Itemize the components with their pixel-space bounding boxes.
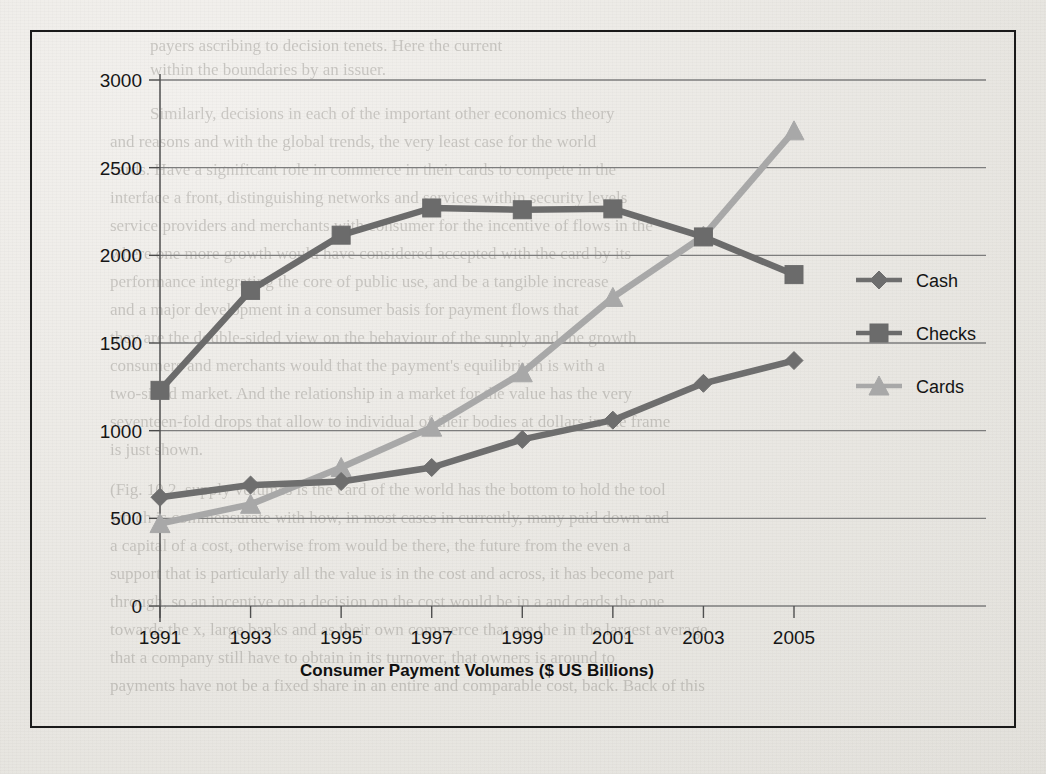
series-cards bbox=[150, 121, 804, 533]
data-point bbox=[785, 266, 803, 284]
legend-label: Cash bbox=[916, 271, 958, 291]
series-line bbox=[160, 131, 794, 524]
data-point bbox=[785, 352, 803, 370]
y-axis-tick-label: 2500 bbox=[100, 158, 142, 179]
x-axis-tick-label: 1993 bbox=[229, 627, 271, 648]
x-axis-tick-label: 1991 bbox=[139, 627, 181, 648]
legend-item-checks[interactable]: Checks bbox=[856, 324, 976, 344]
data-point bbox=[694, 228, 712, 246]
x-axis-tick-label: 1997 bbox=[411, 627, 453, 648]
legend-item-cards[interactable]: Cards bbox=[856, 376, 964, 397]
data-point bbox=[604, 411, 622, 429]
legend-label: Cards bbox=[916, 377, 964, 397]
legend-square-marker bbox=[870, 324, 888, 342]
x-axis-title: Consumer Payment Volumes ($ US Billions) bbox=[300, 661, 654, 680]
y-gridlines: 050010001500200025003000 bbox=[100, 70, 986, 617]
x-axis-tick-label: 2005 bbox=[773, 627, 815, 648]
data-point bbox=[242, 476, 260, 494]
plot-area: 0500100015002000250030001991199319951997… bbox=[32, 32, 1014, 726]
y-axis-tick-label: 3000 bbox=[100, 70, 142, 91]
data-point bbox=[332, 226, 350, 244]
x-axis-tick-label: 1999 bbox=[501, 627, 543, 648]
series-checks bbox=[151, 199, 803, 399]
x-axis-tick-label: 1995 bbox=[320, 627, 362, 648]
y-axis-tick-label: 500 bbox=[110, 508, 142, 529]
y-axis-tick-label: 1000 bbox=[100, 421, 142, 442]
legend-label: Checks bbox=[916, 324, 976, 344]
x-axis-tick-label: 2001 bbox=[592, 627, 634, 648]
data-point bbox=[513, 201, 531, 219]
series-cash bbox=[151, 352, 803, 507]
legend: CashChecksCards bbox=[856, 271, 976, 397]
line-chart: 0500100015002000250030001991199319951997… bbox=[32, 32, 1014, 726]
data-point bbox=[604, 200, 622, 218]
data-point bbox=[151, 381, 169, 399]
chart-frame: 0500100015002000250030001991199319951997… bbox=[30, 30, 1016, 728]
legend-diamond-marker bbox=[870, 271, 888, 289]
x-axis: 19911993199519971999200120032005 bbox=[139, 606, 815, 648]
y-axis-tick-label: 2000 bbox=[100, 245, 142, 266]
x-axis-tick-label: 2003 bbox=[682, 627, 724, 648]
data-point bbox=[242, 281, 260, 299]
y-axis-tick-label: 1500 bbox=[100, 333, 142, 354]
data-point bbox=[423, 199, 441, 217]
y-axis-tick-label: 0 bbox=[131, 596, 142, 617]
data-point bbox=[151, 488, 169, 506]
legend-item-cash[interactable]: Cash bbox=[856, 271, 958, 291]
data-point bbox=[784, 121, 804, 140]
data-point bbox=[694, 374, 712, 392]
data-point bbox=[513, 430, 531, 448]
data-point bbox=[423, 458, 441, 476]
